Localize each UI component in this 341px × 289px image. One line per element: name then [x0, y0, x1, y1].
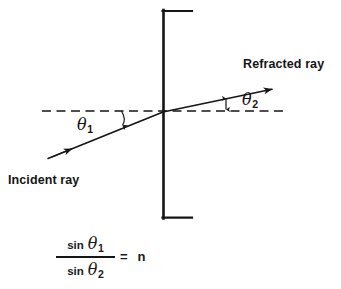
theta2-subscript: 2 [252, 98, 258, 110]
refraction-diagram [0, 0, 341, 289]
refracted-ray-label: Refracted ray [243, 58, 324, 71]
formula-numerator: sin θ1 [64, 234, 107, 256]
snells-law-formula: sin θ1 sin θ2 = n [56, 234, 146, 280]
numerator-theta-symbol: θ [88, 234, 98, 253]
equals-sign: = [120, 249, 128, 264]
theta1-angle-arc [122, 111, 125, 125]
theta2-symbol: θ [242, 90, 252, 109]
denominator-theta-subscript: 2 [98, 268, 104, 280]
numerator-theta-subscript: 1 [98, 242, 104, 254]
theta2-label: θ2 [242, 92, 258, 110]
numerator-theta: θ1 [88, 234, 104, 254]
refractive-index-variable: n [138, 249, 146, 264]
formula-fraction: sin θ1 sin θ2 [56, 234, 115, 280]
numerator-sin-label: sin [67, 239, 84, 251]
denominator-theta-symbol: θ [88, 260, 98, 279]
denominator-sin-label: sin [67, 265, 84, 277]
incident-ray-label: Incident ray [8, 174, 79, 187]
denominator-theta: θ2 [88, 260, 104, 280]
formula-denominator: sin θ2 [64, 258, 107, 280]
theta1-symbol: θ [77, 115, 87, 134]
interface-boundary [163, 10, 193, 219]
theta1-label: θ1 [77, 117, 93, 135]
theta1-arc-path [122, 111, 125, 125]
incident-ray-direction-arrow [52, 149, 72, 157]
incident-ray [48, 112, 163, 159]
theta1-subscript: 1 [87, 123, 93, 135]
